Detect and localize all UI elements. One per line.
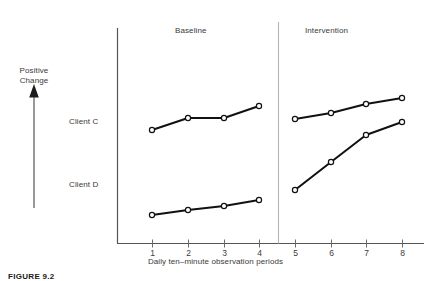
series-client-d-markers <box>149 119 404 217</box>
series-client-c <box>149 95 404 132</box>
data-point <box>149 212 154 217</box>
data-point <box>399 119 404 124</box>
data-point <box>185 207 190 212</box>
figure-root: 1 2 3 4 5 6 7 8 <box>0 0 431 281</box>
data-point <box>399 95 404 100</box>
data-point <box>221 203 226 208</box>
up-arrow-icon <box>29 84 39 208</box>
figure-caption: FIGURE 9.2 <box>8 272 55 281</box>
series-client-c-baseline-line <box>152 106 259 130</box>
series-client-d <box>149 119 404 217</box>
data-point <box>221 115 226 120</box>
x-axis-title: Daily ten–minute observation periods <box>0 257 431 267</box>
data-point <box>363 101 368 106</box>
series-label-client-d: Client D <box>69 180 98 190</box>
series-client-d-intervention-line <box>295 122 402 190</box>
data-point <box>328 110 333 115</box>
data-point <box>328 159 333 164</box>
series-label-client-c: Client C <box>69 117 98 127</box>
data-point <box>292 187 297 192</box>
series-client-d-baseline-line <box>152 200 259 215</box>
phase-label-baseline: Baseline <box>175 26 207 36</box>
y-axis-direction-label: Positive Change <box>8 66 60 86</box>
series-client-c-intervention-line <box>295 98 402 119</box>
axis-lines <box>117 28 424 244</box>
chart-canvas: 1 2 3 4 5 6 7 8 <box>0 0 431 281</box>
data-point <box>256 197 261 202</box>
phase-label-intervention: Intervention <box>305 26 348 36</box>
data-point <box>256 103 261 108</box>
data-point <box>149 127 154 132</box>
data-point <box>363 132 368 137</box>
data-point <box>185 115 190 120</box>
series-client-c-markers <box>149 95 404 132</box>
data-point <box>292 116 297 121</box>
